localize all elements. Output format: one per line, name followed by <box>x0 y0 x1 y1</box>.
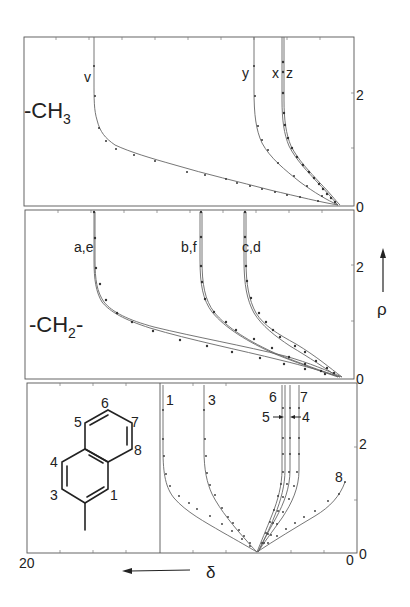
rho-arrow-icon <box>380 248 386 258</box>
double-bond-1-2 <box>87 487 104 497</box>
label-4: 4 <box>302 409 310 425</box>
label-3: 3 <box>208 392 216 408</box>
points-5674 <box>261 407 300 544</box>
curve-z <box>284 37 340 205</box>
atom-label-5: 5 <box>74 414 82 430</box>
curve-x <box>282 37 338 205</box>
rho-label: ρ <box>377 300 387 319</box>
curve-v <box>94 37 338 205</box>
nmr-shift-figure: v y x z -CH3 2 0 <box>0 0 410 607</box>
xtick-20: 20 <box>19 555 35 571</box>
curve-a <box>94 212 340 377</box>
molecule-2-methylnaphthalene: 6 5 7 8 4 3 1 <box>50 395 142 530</box>
group-label-ch2: -CH2- <box>29 312 83 341</box>
curve-c <box>244 212 338 377</box>
label-8: 8 <box>335 469 343 485</box>
ytick-top-2: 2 <box>356 87 364 103</box>
panel-top-ticks <box>56 37 354 148</box>
label-y: y <box>242 65 249 81</box>
curve-3 <box>204 385 257 552</box>
atom-label-4: 4 <box>50 454 58 470</box>
curve-y <box>254 37 338 205</box>
arrow-4-icon <box>290 415 295 419</box>
panel-top-frame <box>24 37 354 206</box>
label-bf: b,f <box>181 239 197 255</box>
label-1: 1 <box>166 392 174 408</box>
panel-bottom: 1 3 6 7 5 4 8 2 0 20 0 6 5 7 8 4 3 <box>19 383 367 571</box>
label-v: v <box>84 69 91 85</box>
label-ae: a,e <box>74 239 94 255</box>
xtick-0: 0 <box>346 552 354 568</box>
delta-arrow-shaft <box>130 570 190 571</box>
delta-arrow-icon <box>122 568 132 574</box>
atom-label-7: 7 <box>131 414 139 430</box>
panel-top: v y x z -CH3 2 0 <box>24 37 364 215</box>
arrow-5-icon <box>279 415 284 419</box>
atom-label-6: 6 <box>101 395 109 411</box>
ytick-top-0: 0 <box>356 199 364 215</box>
group-label-ch3: -CH3 <box>24 98 71 127</box>
label-6: 6 <box>269 389 277 405</box>
ring-upper <box>85 410 132 462</box>
points-ae <box>93 211 326 375</box>
label-x: x <box>272 65 279 81</box>
double-bond-4a-8a <box>89 455 103 463</box>
curve-8 <box>257 482 345 552</box>
panel-middle: a,e b,f c,d -CH2- 2 0 ρ <box>25 210 387 387</box>
points-3 <box>203 409 251 544</box>
curve-d <box>246 212 342 377</box>
ytick-mid-2: 2 <box>356 259 364 275</box>
points-bf <box>200 211 322 372</box>
double-bond-5-6 <box>90 415 108 425</box>
label-7: 7 <box>300 389 308 405</box>
label-z: z <box>286 65 293 81</box>
atom-label-3: 3 <box>50 487 58 503</box>
atom-label-8: 8 <box>134 442 142 458</box>
curve-1 <box>163 385 257 552</box>
panel-middle-ticks <box>58 210 354 321</box>
points-xz <box>282 61 336 203</box>
panel-middle-frame <box>25 210 354 379</box>
ytick-bot-0: 0 <box>359 546 367 562</box>
label-5: 5 <box>262 409 270 425</box>
atom-label-1: 1 <box>110 487 118 503</box>
label-cd: c,d <box>242 239 261 255</box>
ring-lower <box>62 449 108 503</box>
delta-label: δ <box>206 563 215 582</box>
ytick-bot-2: 2 <box>359 436 367 452</box>
